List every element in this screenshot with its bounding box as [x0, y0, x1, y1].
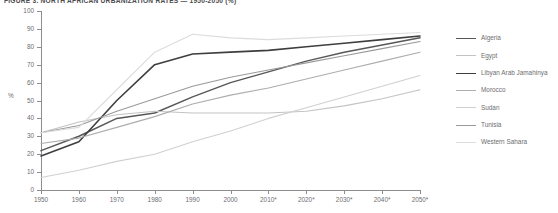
- legend-label: Morocco: [481, 87, 506, 93]
- chart-title: FIGURE 3. NORTH AFRICAN URBANIZATION RAT…: [4, 0, 236, 4]
- series-line: [41, 38, 420, 151]
- legend-swatch-line-icon: [456, 125, 476, 126]
- x-tick-label: 1990: [185, 197, 199, 203]
- chart-legend: AlgeriaEgyptLibyan Arab JamahinyaMorocco…: [456, 30, 556, 151]
- y-tick-label: 70: [27, 61, 34, 67]
- series-line: [41, 41, 420, 132]
- x-tick-mark: [117, 190, 118, 194]
- legend-item[interactable]: Algeria: [456, 30, 556, 47]
- x-tick-label: 2000: [223, 197, 237, 203]
- x-tick-mark: [382, 190, 383, 194]
- legend-swatch-line-icon: [456, 55, 476, 56]
- series-line: [41, 90, 420, 133]
- series-line: [41, 36, 420, 156]
- x-tick-label: 2030*: [336, 197, 353, 203]
- legend-swatch-line-icon: [456, 73, 476, 74]
- x-tick-mark: [41, 190, 42, 194]
- y-tick-label: 50: [27, 97, 34, 103]
- legend-label: Egypt: [481, 53, 497, 59]
- y-tick-label: 20: [27, 151, 34, 157]
- x-tick-label: 1950: [34, 197, 48, 203]
- legend-label: Sudan: [481, 105, 499, 111]
- legend-label: Western Sahara: [481, 139, 527, 145]
- y-tick-label: 60: [27, 79, 34, 85]
- x-tick-mark: [306, 190, 307, 194]
- x-tick-mark: [155, 190, 156, 194]
- y-axis-unit-label: %: [8, 92, 14, 99]
- legend-item[interactable]: Western Sahara: [456, 134, 556, 151]
- x-tick-label: 1980: [148, 197, 162, 203]
- x-tick-mark: [231, 190, 232, 194]
- x-tick-label: 1960: [72, 197, 86, 203]
- x-tick-mark: [79, 190, 80, 194]
- plot-area: 0102030405060708090100 19501960197019801…: [41, 11, 420, 190]
- legend-label: Libyan Arab Jamahinya: [481, 70, 547, 76]
- legend-item[interactable]: Libyan Arab Jamahinya: [456, 65, 556, 82]
- legend-item[interactable]: Tunisia: [456, 116, 556, 133]
- y-tick-label: 100: [23, 8, 34, 14]
- x-tick-label: 1970: [110, 197, 124, 203]
- x-tick-mark: [344, 190, 345, 194]
- legend-swatch-line-icon: [456, 38, 476, 39]
- x-tick-mark: [268, 190, 269, 194]
- legend-item[interactable]: Sudan: [456, 99, 556, 116]
- x-tick-mark: [193, 190, 194, 194]
- y-tick-label: 30: [27, 133, 34, 139]
- y-tick-label: 90: [27, 26, 34, 32]
- x-tick-label: 2050*: [412, 197, 429, 203]
- legend-swatch-line-icon: [456, 90, 476, 91]
- urbanization-line-chart: FIGURE 3. NORTH AFRICAN URBANIZATION RAT…: [0, 0, 558, 213]
- y-tick-label: 0: [30, 187, 34, 193]
- series-lines: [41, 11, 420, 190]
- legend-label: Tunisia: [481, 122, 501, 128]
- legend-label: Algeria: [481, 35, 501, 41]
- x-tick-mark: [420, 190, 421, 194]
- x-tick-label: 2020*: [298, 197, 315, 203]
- y-tick-label: 10: [27, 169, 34, 175]
- legend-item[interactable]: Egypt: [456, 47, 556, 64]
- x-tick-label: 2040*: [374, 197, 391, 203]
- y-tick-label: 40: [27, 115, 34, 121]
- legend-item[interactable]: Morocco: [456, 82, 556, 99]
- x-tick-label: 2010*: [260, 197, 277, 203]
- series-line: [41, 75, 420, 177]
- y-tick-label: 80: [27, 44, 34, 50]
- series-line: [41, 52, 420, 143]
- legend-swatch-line-icon: [456, 142, 476, 143]
- legend-swatch-line-icon: [456, 107, 476, 108]
